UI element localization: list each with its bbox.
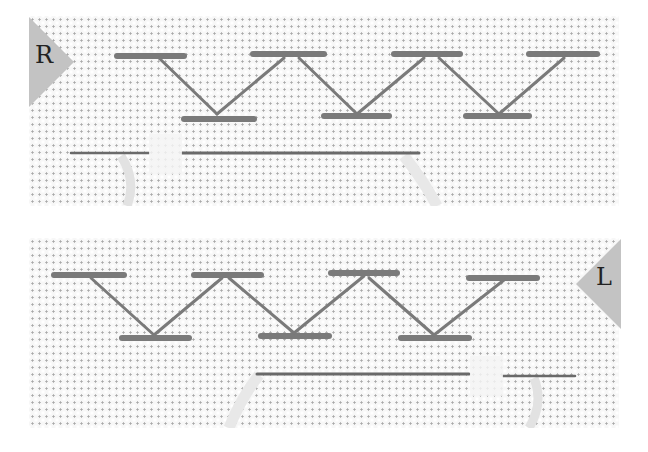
fabric-panel-top (29, 16, 619, 206)
stitch-diagram-bottom (29, 238, 619, 428)
fabric-panel-bottom (29, 238, 619, 428)
direction-label: L (596, 265, 612, 289)
stitch-diagram-top (29, 16, 619, 206)
direction-marker-left: L (576, 239, 621, 329)
direction-label: R (35, 43, 53, 67)
direction-marker-right: R (29, 17, 74, 107)
